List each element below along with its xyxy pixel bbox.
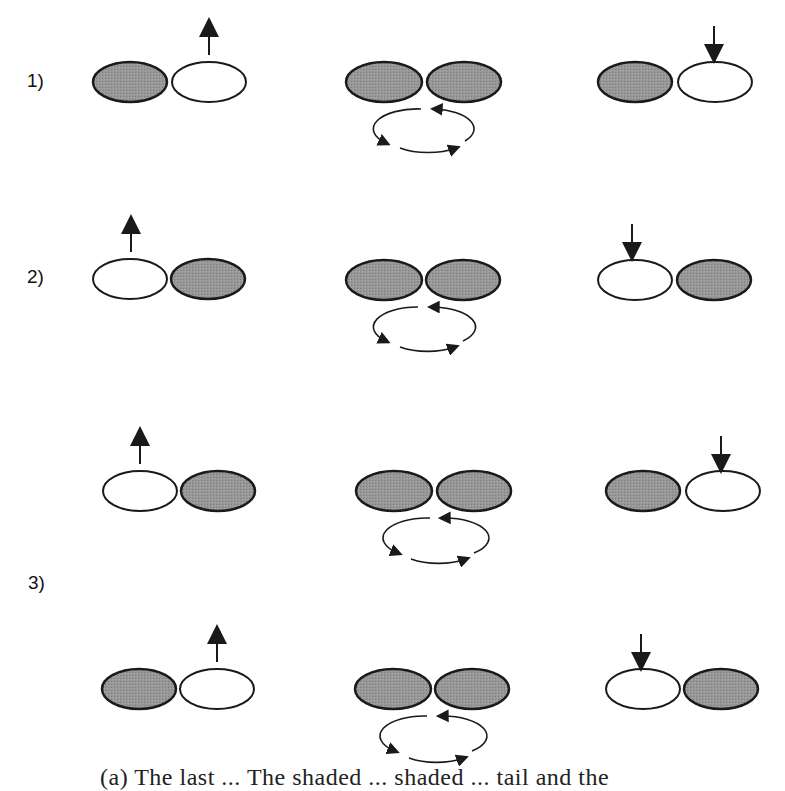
- row-1-right-panel: [598, 26, 752, 102]
- rotation-arrows-icon: [373, 307, 475, 351]
- shaded-lobe: [435, 669, 509, 709]
- shaded-lobe: [427, 62, 501, 102]
- row-3b: [102, 634, 758, 762]
- row-1-left-panel: [93, 27, 246, 102]
- row-3b-center-panel: [355, 669, 509, 762]
- shaded-lobe: [346, 260, 422, 300]
- shaded-lobe: [102, 669, 176, 709]
- unshaded-lobe: [172, 62, 246, 102]
- shaded-lobe: [598, 62, 672, 102]
- row-2-center-panel: [346, 260, 500, 351]
- shaded-lobe: [426, 260, 500, 300]
- shaded-lobe: [437, 471, 511, 511]
- shaded-lobe: [606, 471, 680, 511]
- unshaded-lobe: [93, 259, 167, 299]
- unshaded-lobe: [598, 260, 672, 300]
- shaded-lobe: [346, 62, 422, 102]
- rotation-arrows-icon: [383, 518, 489, 563]
- shaded-lobe: [677, 260, 751, 300]
- row-2-left-panel: [93, 224, 245, 299]
- rotation-arrows-icon: [373, 109, 474, 153]
- row-3a-right-panel: [606, 436, 760, 511]
- shaded-lobe: [171, 259, 245, 299]
- row-2-right-panel: [598, 224, 751, 300]
- row-3b-left-panel: [102, 634, 254, 709]
- figure-caption-partial: (a) The last ... The shaded ... shaded .…: [100, 764, 785, 791]
- rotation-arrows-icon: [380, 716, 487, 762]
- shaded-lobe: [181, 471, 255, 511]
- row-1: [93, 26, 752, 153]
- shaded-lobe: [355, 669, 431, 709]
- row-label-3: 3): [28, 572, 45, 594]
- row-1-center-panel: [346, 62, 501, 153]
- unshaded-lobe: [606, 669, 680, 709]
- unshaded-lobe: [180, 669, 254, 709]
- unshaded-lobe: [678, 62, 752, 102]
- shaded-lobe: [684, 669, 758, 709]
- unshaded-lobe: [686, 471, 760, 511]
- row-3b-right-panel: [606, 634, 758, 709]
- row-3a-left-panel: [103, 436, 255, 511]
- shaded-lobe: [356, 471, 432, 511]
- row-2: [93, 224, 751, 351]
- row-label-2: 2): [27, 266, 44, 288]
- row-3a: [103, 436, 760, 563]
- shaded-lobe: [93, 62, 167, 102]
- row-3a-center-panel: [356, 471, 511, 563]
- unshaded-lobe: [103, 471, 177, 511]
- row-label-1: 1): [27, 70, 44, 92]
